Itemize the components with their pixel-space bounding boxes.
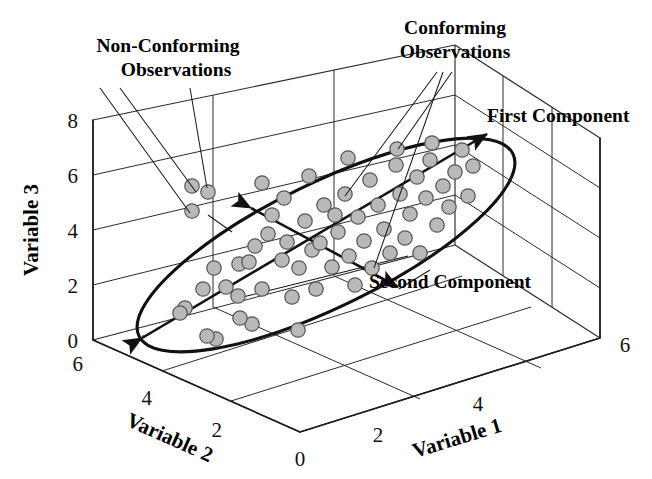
x-tick-4: 4	[473, 392, 484, 416]
data-point	[461, 189, 475, 203]
z-tick-6: 6	[68, 164, 79, 188]
data-point	[298, 214, 312, 228]
x-tick-6: 6	[620, 333, 631, 357]
data-point	[173, 306, 187, 320]
y-tick-2: 2	[212, 418, 223, 442]
data-point	[448, 165, 462, 179]
data-point	[430, 218, 444, 232]
data-point	[302, 169, 316, 183]
y-tick-6: 6	[73, 352, 84, 376]
data-point	[231, 289, 245, 303]
data-point	[265, 208, 279, 222]
axis-label-variable2: Variable 2	[123, 408, 217, 467]
data-point	[233, 311, 247, 325]
data-point	[348, 278, 362, 292]
data-point	[389, 158, 403, 172]
data-point	[466, 159, 480, 173]
data-point	[351, 210, 365, 224]
data-point	[425, 136, 439, 150]
data-point	[207, 261, 221, 275]
leader-nonconforming-1	[100, 88, 190, 213]
x-tick-2: 2	[373, 423, 384, 447]
data-point	[196, 282, 210, 296]
data-point	[248, 239, 262, 253]
data-point	[442, 200, 456, 214]
data-point	[277, 191, 291, 205]
leader-outlier-tick	[208, 215, 232, 232]
axis-variable1	[300, 338, 600, 432]
leader-conforming-3	[398, 72, 452, 149]
data-point	[371, 198, 385, 212]
data-point	[255, 282, 269, 296]
data-point	[328, 208, 342, 222]
data-point	[291, 323, 305, 337]
callout-nonconforming-line2: Observations	[121, 59, 232, 80]
callout-labels: Non-Conforming Observations Conforming O…	[96, 17, 629, 292]
axis-label-variable3: Variable 3	[19, 184, 43, 276]
leader-nonconforming-3	[190, 88, 207, 188]
data-point	[275, 253, 289, 267]
grid-right-z4	[455, 145, 600, 238]
plot-canvas: 8 6 4 2 0 6 4 2 0 2 4 6 Variable 3 Varia…	[0, 0, 652, 479]
data-point	[219, 280, 233, 294]
data-point	[280, 235, 294, 249]
callout-second-component: Second Component	[369, 271, 531, 292]
data-point	[309, 282, 323, 296]
data-point	[363, 173, 377, 187]
data-point	[383, 246, 397, 260]
data-point	[261, 227, 275, 241]
data-point	[313, 236, 327, 250]
data-point	[398, 231, 412, 245]
data-point	[419, 191, 433, 205]
data-point	[200, 329, 214, 343]
data-point-nonconforming	[185, 204, 199, 218]
callout-first-component: First Component	[487, 105, 630, 126]
data-point	[285, 290, 299, 304]
data-point	[342, 249, 356, 263]
callout-nonconforming-line1: Non-Conforming	[96, 35, 239, 56]
leader-nonconforming-2	[120, 88, 196, 192]
data-point	[455, 143, 469, 157]
data-point	[331, 225, 345, 239]
y-tick-0: 0	[295, 447, 306, 471]
z-tick-8: 8	[68, 109, 79, 133]
data-point	[341, 151, 355, 165]
data-point	[255, 176, 269, 190]
data-point	[357, 234, 371, 248]
z-tick-0: 0	[68, 329, 79, 353]
data-point	[436, 179, 450, 193]
data-point-nonconforming	[201, 185, 215, 199]
callout-conforming-line1: Conforming	[404, 17, 506, 38]
data-point	[292, 261, 306, 275]
data-point	[413, 246, 427, 260]
callout-conforming-line2: Observations	[400, 41, 511, 62]
y-tick-4: 4	[142, 386, 153, 410]
data-point	[403, 207, 417, 221]
axes-box-grid	[93, 45, 600, 432]
data-point	[242, 255, 256, 269]
z-tick-4: 4	[68, 219, 79, 243]
data-point	[410, 170, 424, 184]
z-tick-2: 2	[68, 274, 79, 298]
axis-variable2	[93, 340, 300, 432]
data-point	[423, 153, 437, 167]
figure-3d-scatter-pca: 8 6 4 2 0 6 4 2 0 2 4 6 Variable 3 Varia…	[0, 0, 652, 479]
grid-floor-a2	[231, 307, 531, 401]
axis-label-variable1: Variable 1	[409, 413, 504, 463]
data-point	[325, 260, 339, 274]
